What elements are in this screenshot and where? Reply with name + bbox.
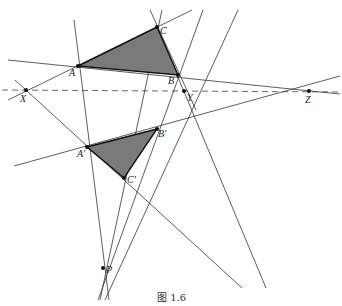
label-a: A — [68, 67, 76, 78]
label-y: Y — [187, 92, 194, 103]
label-z: Z — [305, 94, 311, 105]
desargues-diagram: A B C A' B' C' X Y Z P 图 1.6 — [0, 0, 342, 306]
label-b2: B' — [158, 128, 167, 139]
label-p: P — [105, 264, 112, 275]
label-x: X — [19, 93, 27, 104]
point-c2 — [122, 176, 126, 180]
point-a2 — [85, 145, 89, 149]
label-a2: A' — [76, 148, 86, 159]
line-a2b2-z — [14, 76, 340, 166]
figure-caption: 图 1.6 — [157, 292, 186, 303]
point-z — [307, 89, 311, 93]
point-a — [76, 64, 80, 68]
label-b: B — [168, 75, 174, 86]
point-x — [24, 88, 28, 92]
label-c: C — [160, 25, 167, 36]
label-c2: C' — [127, 174, 137, 185]
point-b — [176, 73, 180, 77]
point-p — [101, 266, 105, 270]
point-y — [182, 89, 186, 93]
point-c — [155, 25, 159, 29]
